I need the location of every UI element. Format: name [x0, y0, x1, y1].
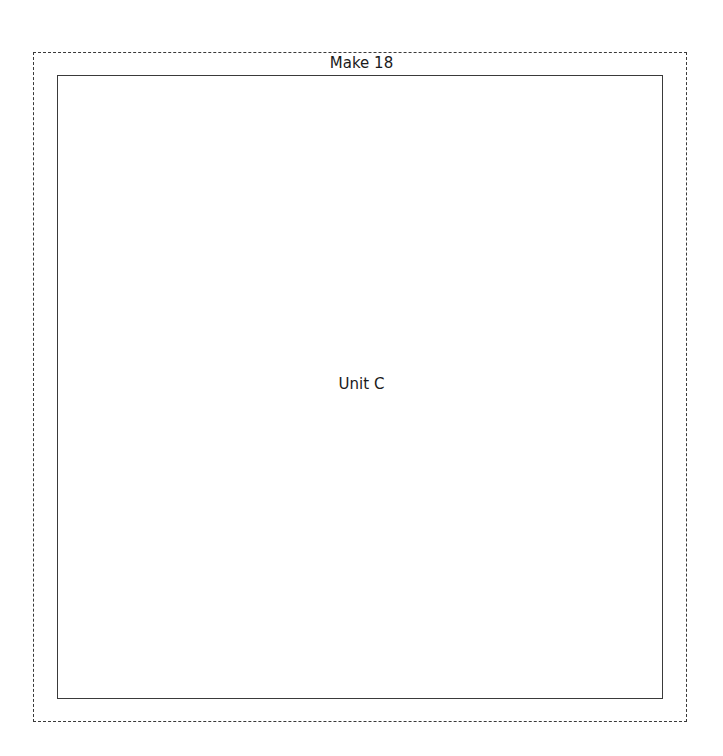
make-quantity-title: Make 18: [0, 53, 723, 73]
unit-label: Unit C: [0, 374, 723, 394]
